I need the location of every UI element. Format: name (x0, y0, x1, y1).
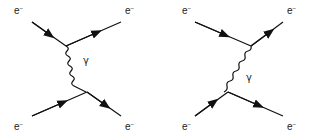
label-top-right: e− (125, 6, 134, 16)
label-bottom-left: e− (14, 122, 23, 132)
label-top-right: e− (287, 6, 296, 16)
label-bottom-left: e− (182, 122, 191, 132)
feynman-diagrams (0, 0, 310, 137)
photon-label: γ (246, 73, 252, 83)
right-diagram (195, 22, 283, 116)
label-top-left: e− (14, 6, 23, 16)
label-bottom-right: e− (287, 122, 296, 132)
photon-wavy-line (224, 46, 251, 92)
label-top-left: e− (182, 6, 191, 16)
photon-label: γ (83, 56, 89, 66)
photon-wavy-line (66, 46, 86, 92)
left-diagram (32, 22, 121, 116)
label-bottom-right: e− (125, 122, 134, 132)
